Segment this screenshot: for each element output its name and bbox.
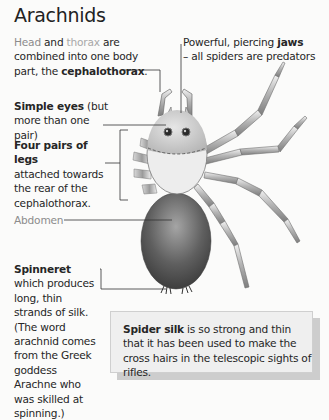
head-region (147, 110, 207, 154)
eyes-label: Simple eyes (but more than one pair) (14, 99, 114, 142)
right-legs (194, 62, 307, 288)
spinneret-label: Spinneret which produces long, thin stra… (14, 262, 102, 420)
cephalothorax-label: Head and thorax are combined into one bo… (14, 35, 164, 78)
callout-text: Spider silk is so strong and thin that i… (123, 322, 313, 380)
abdomen-shape (141, 193, 211, 289)
jaws-label: Powerful, piercing jaws – all spiders ar… (183, 35, 328, 64)
spider-silk-callout: Spider silk is so strong and thin that i… (110, 311, 313, 373)
abdomen-label: Abdomen (14, 213, 63, 227)
legs-label: Four pairs of legs attached towards the … (14, 138, 114, 210)
